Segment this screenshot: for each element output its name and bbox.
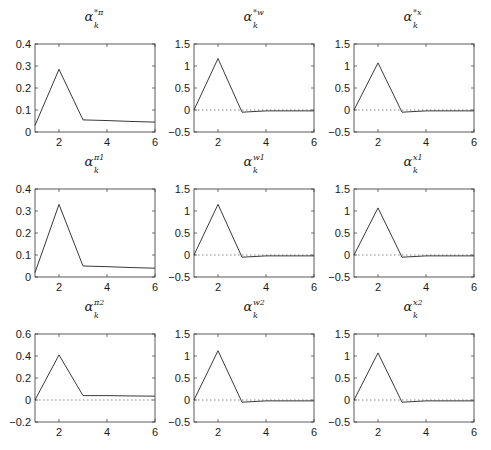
axes-box (35, 189, 155, 277)
title-alpha: α (244, 154, 253, 169)
subplot-9: 246−0.500.511.5αkx2 (328, 298, 477, 438)
y-tick-label: 0.1 (16, 249, 31, 261)
title-alpha: α (404, 9, 413, 24)
x-tick-label: 2 (56, 136, 62, 148)
title-alpha: α (85, 9, 94, 24)
y-tick-label: 0.4 (16, 350, 31, 362)
y-tick-label: −0.5 (328, 271, 350, 283)
title-superscript: *π (94, 8, 104, 17)
y-tick-label: 0.3 (16, 60, 31, 72)
subplot-5: 246−0.500.511.5αkw1 (168, 153, 317, 293)
axes-box (35, 334, 155, 422)
subplot-title: αk*π (85, 8, 104, 30)
y-tick-label: 1 (184, 60, 190, 72)
title-subscript: k (413, 311, 418, 320)
x-tick-label: 2 (215, 281, 221, 293)
title-subscript: k (94, 21, 99, 30)
title-superscript: *w (253, 8, 264, 17)
title-alpha: α (404, 299, 413, 314)
series-line (194, 204, 314, 257)
y-tick-label: 1 (184, 350, 190, 362)
y-tick-label: 1.5 (335, 328, 350, 340)
y-tick-label: 0 (184, 394, 190, 406)
series-line (35, 69, 155, 125)
series-line (35, 355, 155, 400)
y-tick-label: −0.5 (168, 126, 190, 138)
x-tick-label: 6 (311, 426, 317, 438)
y-tick-label: 0 (25, 126, 31, 138)
subplot-8: 246−0.500.511.5αkw2 (168, 298, 317, 438)
y-tick-label: 0.2 (16, 372, 31, 384)
subplot-title: αk*w (244, 8, 264, 30)
subplot-2: 246−0.500.511.5αk*w (168, 8, 317, 148)
y-tick-label: 1.5 (175, 183, 190, 195)
title-subscript: k (253, 21, 258, 30)
x-tick-label: 2 (375, 281, 381, 293)
y-tick-label: −0.5 (168, 416, 190, 428)
x-tick-label: 2 (56, 426, 62, 438)
series-line (354, 353, 474, 402)
y-tick-label: 0.5 (175, 227, 190, 239)
series-line (35, 204, 155, 272)
y-tick-label: 0.5 (335, 82, 350, 94)
x-tick-label: 4 (263, 136, 269, 148)
title-subscript: k (413, 21, 418, 30)
x-tick-label: 2 (375, 426, 381, 438)
y-tick-label: 0.4 (16, 38, 31, 50)
x-tick-label: 6 (152, 281, 158, 293)
y-tick-label: 1 (344, 60, 350, 72)
title-alpha: α (85, 154, 94, 169)
y-tick-label: 1.5 (175, 328, 190, 340)
axes-box (354, 44, 474, 132)
figure-3x3-subplots: 24600.10.20.30.4αk*π246−0.500.511.5αk*w2… (0, 0, 491, 450)
title-alpha: α (244, 299, 253, 314)
x-tick-label: 4 (423, 426, 429, 438)
y-tick-label: 1 (344, 205, 350, 217)
axes-box (354, 334, 474, 422)
x-tick-label: 6 (152, 426, 158, 438)
title-alpha: α (244, 9, 253, 24)
y-tick-label: 0 (344, 394, 350, 406)
axes-box (354, 189, 474, 277)
axes-box (194, 189, 314, 277)
y-tick-label: 0.5 (175, 372, 190, 384)
title-superscript: x2 (413, 298, 423, 307)
x-tick-label: 4 (104, 426, 110, 438)
y-tick-label: −0.2 (9, 416, 31, 428)
title-alpha: α (85, 299, 94, 314)
x-tick-label: 6 (152, 136, 158, 148)
y-tick-label: 1.5 (335, 38, 350, 50)
x-tick-label: 2 (375, 136, 381, 148)
subplot-title: αk*x (404, 8, 422, 30)
y-tick-label: 0 (25, 394, 31, 406)
y-tick-label: 0.6 (16, 328, 31, 340)
x-tick-label: 4 (423, 281, 429, 293)
axes-box (35, 44, 155, 132)
y-tick-label: 0.2 (16, 227, 31, 239)
subplot-title: αkπ1 (85, 153, 105, 175)
x-tick-label: 6 (311, 136, 317, 148)
title-subscript: k (94, 166, 99, 175)
x-tick-label: 2 (215, 136, 221, 148)
title-superscript: w2 (253, 298, 265, 307)
subplot-title: αkw1 (244, 153, 265, 175)
y-tick-label: 0.3 (16, 205, 31, 217)
subplot-title: αkx2 (404, 298, 423, 320)
y-tick-label: 0 (344, 249, 350, 261)
y-tick-label: 0.4 (16, 183, 31, 195)
subplot-4: 24600.10.20.30.4αkπ1 (16, 153, 158, 293)
x-tick-label: 4 (104, 136, 110, 148)
series-line (194, 59, 314, 113)
x-tick-label: 4 (104, 281, 110, 293)
title-subscript: k (413, 166, 418, 175)
title-subscript: k (253, 311, 258, 320)
y-tick-label: −0.5 (168, 271, 190, 283)
title-superscript: w1 (253, 153, 265, 162)
x-tick-label: 4 (423, 136, 429, 148)
y-tick-label: −0.5 (328, 416, 350, 428)
y-tick-label: 0 (344, 104, 350, 116)
series-line (354, 63, 474, 112)
y-tick-label: 0.5 (335, 372, 350, 384)
x-tick-label: 2 (215, 426, 221, 438)
x-tick-label: 6 (471, 426, 477, 438)
